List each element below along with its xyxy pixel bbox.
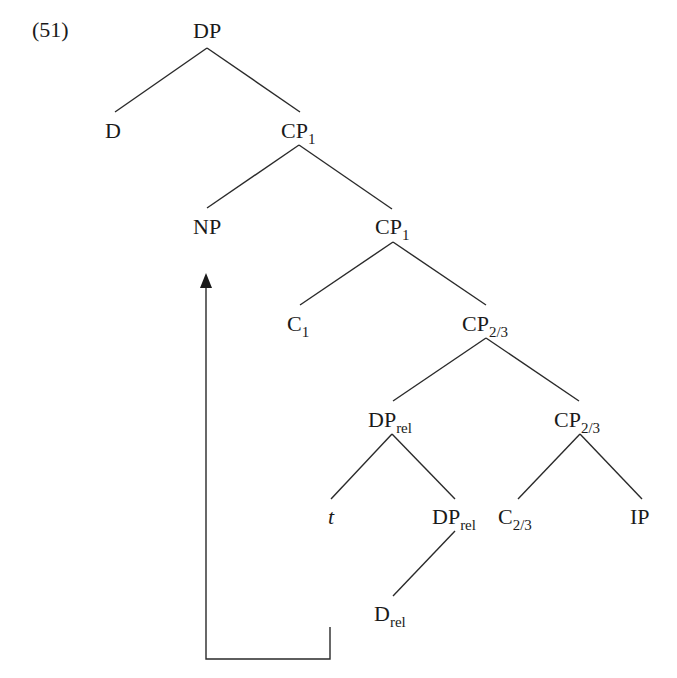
branch-dprel_a-t — [331, 434, 392, 499]
node-category: D — [374, 601, 390, 626]
branch-cp1_b-c1 — [300, 242, 393, 305]
branch-cp1_b-cp23_a — [393, 242, 486, 305]
node-cp1_b: CP1 — [375, 216, 409, 238]
node-ip: IP — [630, 506, 650, 528]
node-subscript: 1 — [402, 227, 410, 243]
branch-cp23_a-dprel_a — [393, 338, 486, 401]
node-category: CP — [281, 118, 308, 143]
branch-cp23_b-ip — [580, 434, 642, 499]
node-category: IP — [630, 504, 650, 529]
node-category: CP — [462, 311, 489, 336]
node-category: t — [328, 504, 334, 529]
node-category: C — [498, 504, 513, 529]
node-dp_root: DP — [193, 20, 221, 42]
node-c1: C1 — [287, 313, 309, 335]
branch-cp1_a-cp1_b — [299, 145, 392, 209]
node-subscript: 1 — [308, 131, 316, 147]
node-category: CP — [375, 214, 402, 239]
branch-dp_root-cp1_a — [207, 48, 300, 112]
node-subscript: rel — [390, 614, 406, 630]
movement-arrow-line — [206, 287, 330, 659]
node-t: t — [328, 506, 334, 528]
node-np: NP — [193, 216, 221, 238]
node-category: DP — [368, 407, 396, 432]
branch-dp_root-d — [115, 48, 207, 112]
branch-cp1_a-np — [207, 145, 299, 208]
branch-cp23_a-cp23_b — [486, 338, 579, 401]
node-category: NP — [193, 214, 221, 239]
node-subscript: 1 — [302, 324, 310, 340]
node-subscript: rel — [396, 420, 412, 436]
syntax-tree-diagram: (51) DPDCP1NPCP1C1CP2/3DPrelCP2/3tDPrelC… — [0, 0, 677, 678]
node-category: D — [105, 118, 121, 143]
branch-dprel_a-dprel_b — [392, 434, 455, 499]
node-d: D — [105, 120, 121, 142]
node-subscript: 2/3 — [581, 420, 600, 436]
node-subscript: 2/3 — [489, 324, 508, 340]
node-cp23_b: CP2/3 — [554, 409, 600, 431]
branch-dprel_b-drel — [393, 531, 455, 596]
branch-cp23_b-c23 — [518, 434, 580, 499]
node-dprel_b: DPrel — [432, 506, 476, 528]
node-category: DP — [193, 18, 221, 43]
node-cp23_a: CP2/3 — [462, 313, 508, 335]
node-c23: C2/3 — [498, 506, 532, 528]
node-cp1_a: CP1 — [281, 120, 315, 142]
node-drel: Drel — [374, 603, 406, 625]
node-category: CP — [554, 407, 581, 432]
node-category: C — [287, 311, 302, 336]
node-dprel_a: DPrel — [368, 409, 412, 431]
node-subscript: 2/3 — [513, 517, 532, 533]
tree-branches — [0, 0, 677, 678]
node-category: DP — [432, 504, 460, 529]
arrow-head-icon — [200, 273, 212, 288]
node-subscript: rel — [460, 517, 476, 533]
